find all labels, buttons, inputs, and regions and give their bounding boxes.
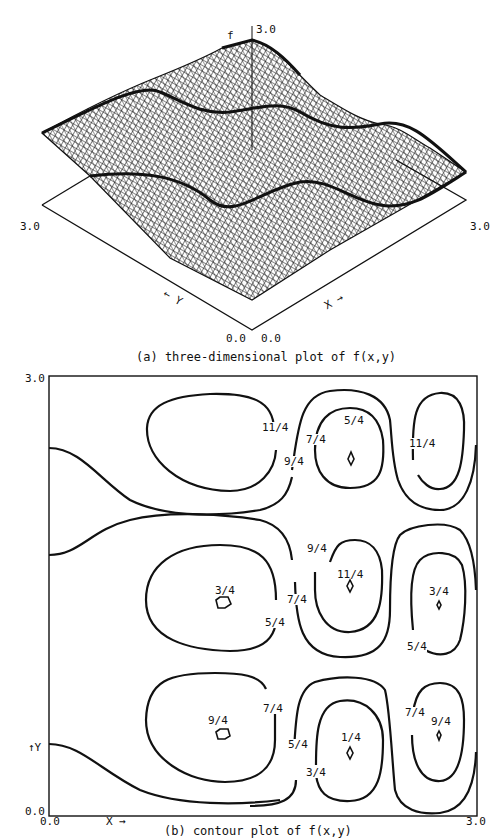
contour-label: 5/4 (265, 617, 285, 628)
contour-label: 5/4 (288, 739, 308, 750)
figure-b: 11/4 9/4 7/4 5/4 11/4 9/4 11/4 3/4 7/4 5… (0, 370, 503, 839)
contour-label: 5/4 (407, 641, 427, 652)
figure-a-caption: (a) three-dimensional plot of f(x,y) (136, 351, 396, 363)
contour-label: 11/4 (337, 569, 364, 580)
x-max-label: 3.0 (466, 816, 486, 827)
contour-label: 7/4 (263, 703, 283, 714)
contour-label: 11/4 (409, 438, 436, 449)
f-axis-label: f (227, 30, 234, 41)
y-axis-max: 3.0 (20, 221, 40, 232)
y-origin: 0.0 (226, 333, 246, 344)
x-min-label: 0.0 (40, 816, 60, 827)
contour-label: 3/4 (306, 767, 326, 778)
contour-label: 9/4 (431, 716, 451, 727)
contour-label: 11/4 (262, 422, 289, 433)
x-axis-max: 3.0 (470, 221, 490, 232)
contour-label: 3/4 (215, 585, 235, 596)
f-axis-max: 3.0 (256, 24, 276, 35)
y-axis-label: ↑Y (28, 742, 41, 753)
contour-label: 3/4 (429, 586, 449, 597)
contour-label: 9/4 (208, 715, 228, 726)
y-max-label: 3.0 (25, 373, 45, 384)
contour-label: 5/4 (344, 415, 364, 426)
contour-label: 7/4 (405, 707, 425, 718)
figure-a: f 3.0 3.0 3.0 0.0 0.0 ← Y X → (a) three-… (0, 0, 503, 370)
contour-label: 7/4 (287, 594, 307, 605)
x-axis-label: X → (106, 816, 126, 827)
contour-label: 1/4 (341, 732, 361, 743)
contour-label: 9/4 (284, 456, 304, 467)
figure-b-caption: (b) contour plot of f(x,y) (164, 825, 352, 837)
surface-plot (0, 0, 503, 370)
x-origin: 0.0 (261, 333, 281, 344)
contour-label: 7/4 (306, 434, 326, 445)
contour-label: 9/4 (307, 543, 327, 554)
